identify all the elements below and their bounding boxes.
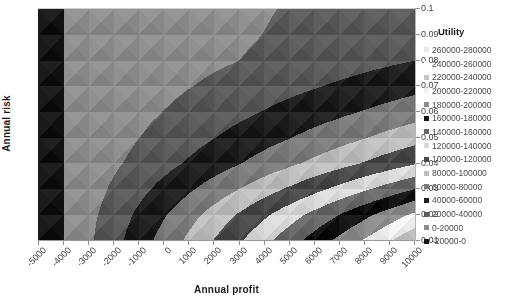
legend-item: 100000-120000: [424, 153, 508, 167]
y-axis-tick: [416, 163, 420, 164]
x-axis-tick: [314, 241, 315, 245]
x-tick-label: 10000: [399, 245, 424, 270]
x-axis-tick: [239, 241, 240, 245]
y-axis-tick: [416, 188, 420, 189]
x-tick-label: 7000: [328, 245, 349, 266]
x-axis-tick: [339, 241, 340, 245]
legend-item-label: 120000-140000: [432, 141, 492, 151]
legend-swatch: [424, 198, 429, 203]
x-tick-label: 3000: [228, 245, 249, 266]
legend-swatch: [424, 88, 429, 93]
x-axis-tick: [138, 241, 139, 245]
legend-item: 240000-260000: [424, 57, 508, 71]
x-axis-tick: [88, 241, 89, 245]
x-axis-tick: [264, 241, 265, 245]
y-axis-tick: [416, 240, 420, 241]
legend-item-label: 20000-40000: [432, 209, 482, 219]
x-axis-tick: [364, 241, 365, 245]
legend-item-label: 200000-220000: [432, 86, 492, 96]
x-axis-tick: [389, 241, 390, 245]
x-axis-title: Annual profit: [38, 284, 415, 295]
legend-item: -20000-0: [424, 235, 508, 249]
y-axis-tick: [416, 85, 420, 86]
legend-swatch: [424, 212, 429, 217]
x-tick-label: -4000: [50, 245, 73, 268]
legend-item: 60000-80000: [424, 180, 508, 194]
legend-item-label: 220000-240000: [432, 72, 492, 82]
x-tick-label: 5000: [278, 245, 299, 266]
legend-item-label: 60000-80000: [432, 182, 482, 192]
legend-item: 200000-220000: [424, 84, 508, 98]
legend-item-label: 0-20000: [432, 223, 463, 233]
legend-item-label: 180000-200000: [432, 100, 492, 110]
legend-item-label: 100000-120000: [432, 154, 492, 164]
x-axis-tick: [289, 241, 290, 245]
y-axis-tick: [416, 137, 420, 138]
y-axis-tick: [416, 60, 420, 61]
legend-item-label: 80000-100000: [432, 168, 487, 178]
legend: Utility 260000-280000240000-260000220000…: [424, 26, 508, 248]
legend-item: 80000-100000: [424, 166, 508, 180]
x-tick-label: -3000: [75, 245, 98, 268]
x-axis-tick: [113, 241, 114, 245]
y-axis-tick: [416, 214, 420, 215]
legend-item: 260000-280000: [424, 43, 508, 57]
x-axis-line: [38, 240, 416, 241]
legend-swatch: [424, 157, 429, 162]
y-axis-tick: [416, 111, 420, 112]
contour-chart: -5000-4000-3000-2000-1000010002000300040…: [0, 0, 508, 303]
x-tick-label: 0: [162, 245, 173, 256]
legend-item: 140000-160000: [424, 125, 508, 139]
x-tick-label: 4000: [253, 245, 274, 266]
x-tick-label: 8000: [353, 245, 374, 266]
x-tick-label: 2000: [202, 245, 223, 266]
legend-swatch: [424, 102, 429, 107]
legend-item: 220000-240000: [424, 70, 508, 84]
legend-item: 0-20000: [424, 221, 508, 235]
legend-swatch: [424, 239, 429, 244]
legend-title: Utility: [438, 26, 508, 37]
legend-item: 180000-200000: [424, 98, 508, 112]
y-tick-label: 0.1: [421, 3, 434, 13]
x-tick-label: -1000: [125, 245, 148, 268]
legend-item-label: 240000-260000: [432, 59, 492, 69]
x-tick-label: -2000: [100, 245, 123, 268]
x-axis-tick: [63, 241, 64, 245]
x-tick-label: 1000: [177, 245, 198, 266]
x-axis-tick: [38, 241, 39, 245]
y-axis-tick: [416, 34, 420, 35]
legend-items: 260000-280000240000-260000220000-2400002…: [424, 43, 508, 248]
legend-item-label: 160000-180000: [432, 113, 492, 123]
plot-area: [38, 8, 415, 241]
legend-swatch: [424, 61, 429, 66]
x-axis-tick: [188, 241, 189, 245]
x-tick-label: -5000: [25, 245, 48, 268]
legend-swatch: [424, 171, 429, 176]
legend-swatch: [424, 116, 429, 121]
x-axis-tick: [414, 241, 415, 245]
x-tick-label: 9000: [378, 245, 399, 266]
legend-swatch: [424, 184, 429, 189]
x-axis-tick: [163, 241, 164, 245]
legend-swatch: [424, 225, 429, 230]
legend-item: 120000-140000: [424, 139, 508, 153]
y-axis-line: [415, 8, 416, 241]
x-axis-tick: [213, 241, 214, 245]
legend-item-label: 140000-160000: [432, 127, 492, 137]
legend-item-label: 260000-280000: [432, 45, 492, 55]
legend-swatch: [424, 47, 429, 52]
legend-item-label: -20000-0: [432, 236, 466, 246]
contour-canvas: [38, 9, 415, 241]
legend-swatch: [424, 129, 429, 134]
legend-swatch: [424, 143, 429, 148]
legend-item: 20000-40000: [424, 207, 508, 221]
x-tick-label: 6000: [303, 245, 324, 266]
legend-item: 160000-180000: [424, 111, 508, 125]
y-axis-tick: [416, 8, 420, 9]
legend-item: 40000-60000: [424, 194, 508, 208]
legend-swatch: [424, 75, 429, 80]
legend-item-label: 40000-60000: [432, 195, 482, 205]
y-axis-title: Annual risk: [1, 74, 14, 174]
